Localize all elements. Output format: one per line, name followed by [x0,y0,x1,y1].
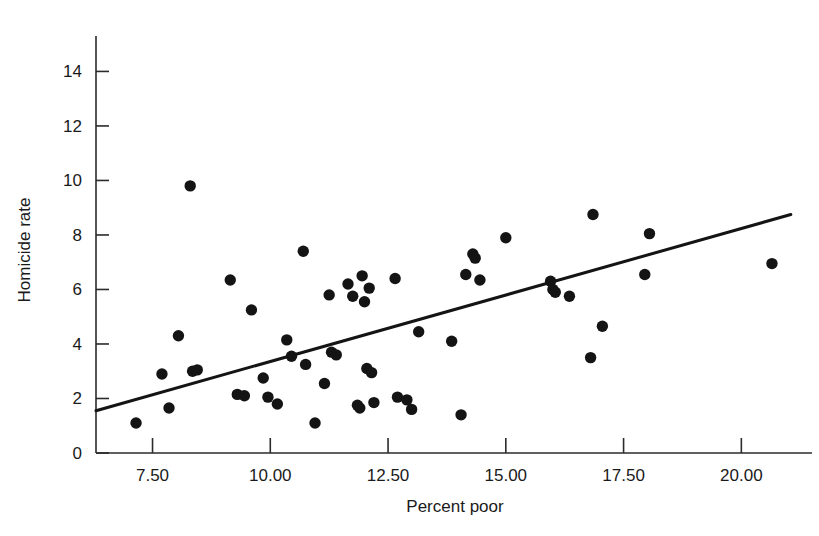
data-point [272,398,283,409]
data-point [406,404,417,415]
x-tick-label: 15.00 [485,466,528,485]
data-points [130,180,777,429]
data-point [366,367,377,378]
y-axis-ticks: 02468101214 [63,62,109,463]
scatter-plot: 02468101214 7.5010.0012.5015.0017.5020.0… [0,0,819,536]
y-axis-label: Homicide rate [15,198,34,303]
data-point [239,390,250,401]
data-point [500,232,511,243]
y-tick-label: 14 [63,62,82,81]
data-point [185,180,196,191]
data-point [354,402,365,413]
data-point [262,391,273,402]
y-tick-label: 10 [63,171,82,190]
y-tick-label: 0 [73,444,82,463]
data-point [156,368,167,379]
data-point [130,417,141,428]
data-point [281,334,292,345]
data-point [359,296,370,307]
data-point [455,409,466,420]
x-tick-label: 10.00 [249,466,292,485]
x-tick-label: 20.00 [720,466,763,485]
data-point [225,274,236,285]
data-point [469,252,480,263]
data-point [766,258,777,269]
x-tick-label: 7.50 [136,466,169,485]
data-point [356,270,367,281]
data-point [163,402,174,413]
data-point [474,274,485,285]
y-tick-label: 2 [73,389,82,408]
data-point [550,286,561,297]
data-point [389,273,400,284]
data-point [413,326,424,337]
data-point [342,278,353,289]
axes [96,36,812,453]
y-tick-label: 6 [73,280,82,299]
y-tick-label: 4 [73,335,82,354]
data-point [364,282,375,293]
data-point [368,397,379,408]
data-point [246,304,257,315]
data-point [192,364,203,375]
data-point [331,349,342,360]
data-point [446,336,457,347]
data-point [639,269,650,280]
x-axis-label: Percent poor [406,497,504,516]
data-point [460,269,471,280]
data-point [587,209,598,220]
data-point [298,246,309,257]
data-point [644,228,655,239]
data-point [319,378,330,389]
x-tick-label: 12.50 [367,466,410,485]
data-point [597,321,608,332]
data-point [258,372,269,383]
figure-canvas: 02468101214 7.5010.0012.5015.0017.5020.0… [0,0,819,536]
y-tick-label: 12 [63,117,82,136]
y-tick-label: 8 [73,226,82,245]
data-point [300,359,311,370]
data-point [585,352,596,363]
x-tick-label: 17.50 [602,466,645,485]
data-point [309,417,320,428]
data-point [323,289,334,300]
regression-line [96,215,791,411]
data-point [347,291,358,302]
data-point [173,330,184,341]
data-point [564,291,575,302]
x-axis-ticks: 7.5010.0012.5015.0017.5020.00 [136,438,763,485]
